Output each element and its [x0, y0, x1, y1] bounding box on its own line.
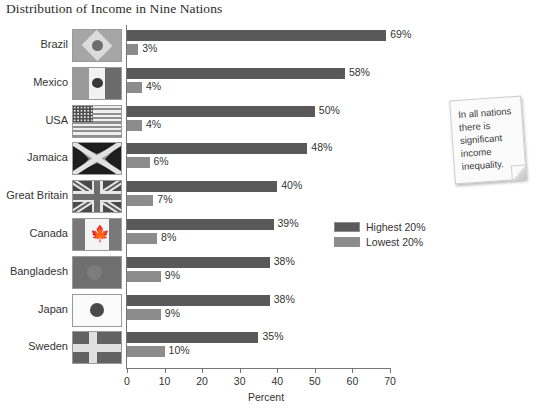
x-axis-tick-label: 50 — [300, 375, 330, 387]
bar-value-highest-20: 48% — [311, 141, 332, 153]
bar-value-highest-20: 38% — [274, 293, 295, 305]
x-axis-tick-label: 40 — [262, 375, 292, 387]
mexico-flag-icon — [72, 67, 122, 100]
x-axis-tick-label: 20 — [187, 375, 217, 387]
country-label: Mexico — [0, 76, 68, 88]
bar-value-highest-20: 50% — [319, 104, 340, 116]
sticky-note-text: In all nations there is significant inco… — [458, 105, 512, 172]
bar-highest-20 — [127, 295, 270, 306]
x-axis-tick — [390, 368, 391, 373]
bar-highest-20 — [127, 30, 386, 41]
x-axis-tick — [202, 368, 203, 373]
x-axis-tick — [240, 368, 241, 373]
plot-area: Brazil69%3%Mexico58%4%USA50%4%Jamaica48%… — [0, 0, 540, 410]
country-label: Great Britain — [0, 189, 68, 201]
bar-value-lowest-20: 4% — [146, 118, 161, 130]
table-row: Canada🍁39%8% — [0, 216, 540, 254]
country-label: Brazil — [0, 38, 68, 50]
table-row: Brazil69%3% — [0, 27, 540, 65]
table-row: Mexico58%4% — [0, 65, 540, 103]
bar-value-lowest-20: 4% — [146, 80, 161, 92]
jamaica-flag-icon — [72, 142, 122, 175]
bar-highest-20 — [127, 219, 274, 230]
sticky-note-fold-icon — [511, 164, 527, 180]
sweden-flag-icon — [72, 331, 122, 364]
bar-value-lowest-20: 7% — [157, 193, 172, 205]
bar-value-highest-20: 40% — [281, 179, 302, 191]
table-row: Japan38%9% — [0, 292, 540, 330]
usa-flag-icon — [72, 105, 122, 138]
bar-lowest-20 — [127, 82, 142, 93]
x-axis-tick — [127, 368, 128, 373]
x-axis-tick — [315, 368, 316, 373]
x-axis-tick — [277, 368, 278, 373]
legend-swatch-highest — [334, 222, 360, 232]
table-row: Bangladesh38%9% — [0, 254, 540, 292]
country-label: Canada — [0, 227, 68, 239]
bar-lowest-20 — [127, 346, 165, 357]
bar-value-lowest-20: 9% — [165, 307, 180, 319]
bar-value-lowest-20: 3% — [142, 42, 157, 54]
x-axis-tick-label: 10 — [150, 375, 180, 387]
x-axis-tick — [165, 368, 166, 373]
bar-value-lowest-20: 10% — [169, 344, 190, 356]
income-distribution-chart: Distribution of Income in Nine Nations B… — [0, 0, 540, 410]
great-britain-flag-icon — [72, 180, 122, 213]
brazil-flag-icon — [72, 29, 122, 62]
bar-lowest-20 — [127, 44, 138, 55]
bar-highest-20 — [127, 68, 345, 79]
country-label: Japan — [0, 303, 68, 315]
bar-lowest-20 — [127, 120, 142, 131]
bar-lowest-20 — [127, 157, 150, 168]
bar-value-highest-20: 58% — [349, 66, 370, 78]
canada-flag-icon: 🍁 — [72, 218, 122, 251]
x-axis-tick-label: 30 — [225, 375, 255, 387]
legend-label-highest: Highest 20% — [366, 221, 426, 233]
bar-value-lowest-20: 8% — [161, 231, 176, 243]
bar-value-highest-20: 35% — [262, 330, 283, 342]
country-label: Bangladesh — [0, 265, 68, 277]
x-axis-line — [126, 368, 391, 369]
bar-value-highest-20: 38% — [274, 255, 295, 267]
bangladesh-flag-icon — [72, 256, 122, 289]
country-label: Sweden — [0, 340, 68, 352]
bar-highest-20 — [127, 181, 277, 192]
x-axis-title: Percent — [226, 391, 306, 403]
bar-value-highest-20: 69% — [390, 28, 411, 40]
bar-highest-20 — [127, 143, 307, 154]
bar-value-lowest-20: 9% — [165, 269, 180, 281]
bar-highest-20 — [127, 332, 258, 343]
bar-highest-20 — [127, 106, 315, 117]
japan-flag-icon — [72, 294, 122, 327]
table-row: Sweden35%10% — [0, 329, 540, 367]
legend-swatch-lowest — [334, 237, 360, 247]
bar-lowest-20 — [127, 309, 161, 320]
x-axis-tick — [352, 368, 353, 373]
country-label: Jamaica — [0, 151, 68, 163]
sticky-note: In all nations there is significant inco… — [449, 96, 527, 185]
bar-lowest-20 — [127, 233, 157, 244]
bar-value-highest-20: 39% — [278, 217, 299, 229]
x-axis-tick-label: 70 — [375, 375, 405, 387]
bar-lowest-20 — [127, 271, 161, 282]
legend-label-lowest: Lowest 20% — [366, 236, 423, 248]
country-label: USA — [0, 114, 68, 126]
x-axis-tick-label: 0 — [112, 375, 142, 387]
bar-value-lowest-20: 6% — [154, 155, 169, 167]
bar-lowest-20 — [127, 195, 153, 206]
bar-highest-20 — [127, 257, 270, 268]
x-axis-tick-label: 60 — [337, 375, 367, 387]
